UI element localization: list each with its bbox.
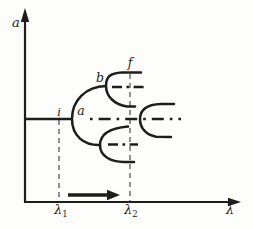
y-axis bbox=[21, 8, 29, 202]
x-axis-label: λ bbox=[225, 202, 234, 217]
point-label-f: f bbox=[127, 55, 135, 70]
y-axis-label: a bbox=[12, 15, 20, 30]
direction-arrow bbox=[68, 190, 120, 200]
lambda2-subscript: 2 bbox=[132, 209, 137, 219]
diagram-canvas: a λ λ1 λ2 i a b f bbox=[0, 0, 253, 229]
point-label-i: i bbox=[57, 105, 61, 119]
second-bifurcation-upper-branch bbox=[106, 73, 141, 107]
lambda1-base: λ bbox=[53, 202, 62, 217]
point-label-b: b bbox=[96, 70, 104, 85]
lambda1-tick-label: λ1 bbox=[53, 202, 67, 219]
lambda2-base: λ bbox=[123, 202, 132, 217]
lambda2-tick-label: λ2 bbox=[123, 202, 137, 219]
third-bifurcation-branch bbox=[140, 104, 174, 137]
lambda1-subscript: 1 bbox=[62, 209, 67, 219]
direction-arrow-head-icon bbox=[107, 190, 120, 200]
point-label-a: a bbox=[77, 103, 84, 118]
bifurcation-diagram-figure: a λ λ1 λ2 i a b f bbox=[0, 0, 253, 229]
y-axis-arrow-icon bbox=[21, 8, 29, 22]
